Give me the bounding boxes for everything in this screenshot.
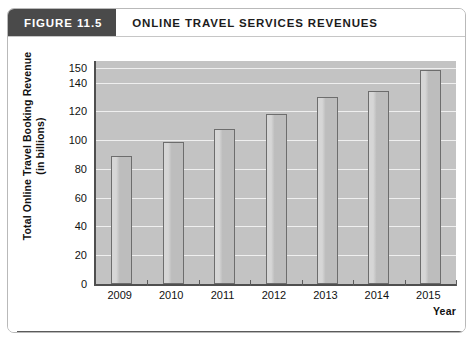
figure-header: FIGURE 11.5 ONLINE TRAVEL SERVICES REVEN… xyxy=(8,9,465,37)
bar-2013 xyxy=(317,97,338,284)
plot-area xyxy=(94,61,456,286)
x-axis-tick xyxy=(250,280,251,286)
gridline xyxy=(96,83,456,84)
x-axis-tick xyxy=(147,280,148,286)
bar-2012 xyxy=(266,114,287,284)
bar-2011 xyxy=(214,129,235,284)
bar-2014 xyxy=(368,91,389,284)
x-axis-tick xyxy=(302,280,303,286)
figure-number-tag: FIGURE 11.5 xyxy=(8,9,116,36)
figure-title: ONLINE TRAVEL SERVICES REVENUES xyxy=(116,9,465,36)
x-axis-tick xyxy=(353,280,354,286)
y-axis-tick-label: 20 xyxy=(27,249,87,261)
figure-card: FIGURE 11.5 ONLINE TRAVEL SERVICES REVEN… xyxy=(7,8,466,333)
x-axis-tick xyxy=(456,280,457,286)
x-axis-tick-label: 2015 xyxy=(398,289,458,301)
y-axis-tick-label: 140 xyxy=(27,77,87,89)
y-axis-tick-label: 100 xyxy=(27,134,87,146)
footer-rule xyxy=(17,331,466,333)
y-axis-tick-label: 80 xyxy=(27,163,87,175)
x-axis-title: Year xyxy=(433,305,456,317)
gridline xyxy=(96,68,456,69)
bar-2015 xyxy=(420,70,441,284)
bar-2010 xyxy=(163,142,184,284)
gridline xyxy=(96,111,456,112)
y-axis-tick-label: 150 xyxy=(27,62,87,74)
bar-2009 xyxy=(111,156,132,284)
y-axis-tick-label: 60 xyxy=(27,192,87,204)
x-axis-tick xyxy=(199,280,200,286)
x-axis-tick xyxy=(405,280,406,286)
y-axis-tick-label: 40 xyxy=(27,220,87,232)
bar-chart: Total Online Travel Booking Revenue (in … xyxy=(8,37,466,333)
figure-body: Total Online Travel Booking Revenue (in … xyxy=(8,37,465,332)
y-axis-tick-label: 0 xyxy=(27,278,87,290)
y-axis-tick-label: 120 xyxy=(27,105,87,117)
